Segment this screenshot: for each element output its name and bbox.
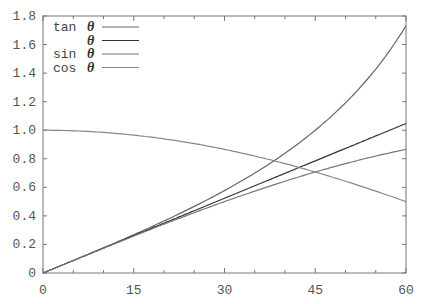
series-line [43,149,406,273]
x-tick-label: 45 [307,283,323,298]
y-tick-label: 1.0 [13,123,36,138]
y-tick-label: 0 [28,266,36,281]
x-tick-label: 15 [126,283,142,298]
y-tick-label: 1.4 [13,66,37,81]
y-tick-label: 1.2 [13,95,36,110]
x-tick-label: 0 [39,283,47,298]
y-tick-label: 1.8 [13,9,36,24]
y-tick-label: 0.4 [13,209,37,224]
legend-label: cos [53,61,76,76]
y-tick-label: 0.2 [13,237,36,252]
y-tick-label: 1.6 [13,38,36,53]
legend: tanθθsinθcosθ [53,19,139,76]
plot-frame [43,16,406,273]
x-tick-label: 30 [217,283,233,298]
x-tick-label: 60 [398,283,414,298]
legend-label: tan [53,20,76,35]
series-lines [43,26,406,273]
legend-theta-symbol: θ [87,60,95,75]
chart: 00.20.40.60.81.01.21.41.61.8015304560 ta… [0,0,421,304]
y-tick-label: 0.8 [13,152,36,167]
y-tick-label: 0.6 [13,180,36,195]
